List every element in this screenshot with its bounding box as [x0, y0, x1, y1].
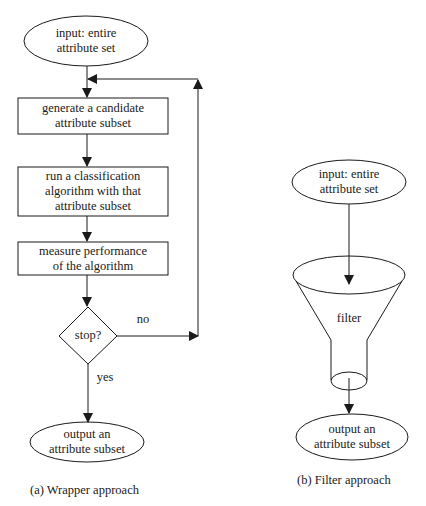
wrapper-generate-line2: attribute subset	[18, 116, 168, 131]
filter-output-line2: attribute subset	[297, 437, 407, 452]
filter-caption: (b) Filter approach	[297, 473, 391, 488]
wrapper-run-line2: algorithm with that	[18, 184, 168, 199]
wrapper-measure-label: measure performance of the algorithm	[18, 244, 168, 274]
filter-input-line2: attribute set	[299, 182, 399, 197]
wrapper-generate-line1: generate a candidate	[18, 101, 168, 116]
wrapper-run-label: run a classification algorithm with that…	[18, 169, 168, 214]
wrapper-no-label: no	[128, 312, 158, 327]
funnel-label: filter	[319, 311, 379, 326]
wrapper-output-line2: attribute subset	[32, 442, 142, 457]
wrapper-measure-line1: measure performance	[18, 244, 168, 259]
wrapper-output-line1: output an	[32, 427, 142, 442]
wrapper-input-label: input: entire attribute set	[36, 26, 136, 56]
funnel-body	[296, 281, 402, 380]
wrapper-run-line3: attribute subset	[18, 199, 168, 214]
wrapper-run-line1: run a classification	[18, 169, 168, 184]
filter-output-line1: output an	[297, 422, 407, 437]
filter-input-label: input: entire attribute set	[299, 167, 399, 197]
wrapper-measure-line2: of the algorithm	[18, 259, 168, 274]
filter-output-label: output an attribute subset	[297, 422, 407, 452]
wrapper-input-line1: input: entire	[36, 26, 136, 41]
wrapper-yes-label: yes	[90, 370, 120, 385]
wrapper-output-label: output an attribute subset	[32, 427, 142, 457]
filter-input-line1: input: entire	[299, 167, 399, 182]
wrapper-generate-label: generate a candidate attribute subset	[18, 101, 168, 131]
wrapper-caption: (a) Wrapper approach	[30, 483, 139, 498]
wrapper-stop-label: stop?	[58, 328, 118, 343]
wrapper-input-line2: attribute set	[36, 41, 136, 56]
